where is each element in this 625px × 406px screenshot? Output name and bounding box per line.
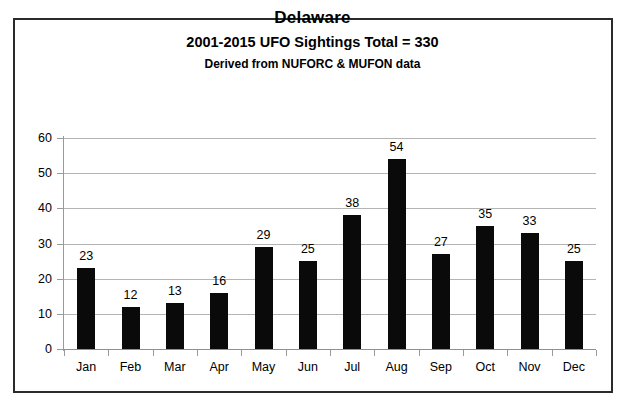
gridline-50 (64, 173, 596, 174)
x-tick (330, 350, 331, 356)
y-tick-50 (57, 173, 64, 174)
x-tick-label-sep: Sep (430, 360, 452, 374)
bar-value-feb: 12 (124, 288, 138, 302)
bar-value-sep: 27 (434, 235, 448, 249)
x-tick (374, 350, 375, 356)
bar-jan (77, 268, 95, 349)
x-tick (552, 350, 553, 356)
x-tick-label-may: May (252, 360, 276, 374)
x-tick-label-jun: Jun (298, 360, 318, 374)
y-tick-label-40: 40 (12, 201, 52, 215)
y-tick-10 (57, 314, 64, 315)
x-tick (286, 350, 287, 356)
x-tick (507, 350, 508, 356)
y-tick-label-0: 0 (12, 342, 52, 356)
bar-value-apr: 16 (212, 274, 226, 288)
y-tick-label-10: 10 (12, 307, 52, 321)
bar-sep (432, 254, 450, 349)
bar-value-oct: 35 (478, 207, 492, 221)
bar-mar (166, 303, 184, 349)
bar-aug (388, 159, 406, 349)
gridline-40 (64, 208, 596, 209)
x-tick-label-feb: Feb (120, 360, 142, 374)
bar-value-may: 29 (257, 228, 271, 242)
bar-value-jul: 38 (345, 196, 359, 210)
x-tick-label-jul: Jul (344, 360, 360, 374)
y-tick-label-20: 20 (12, 272, 52, 286)
plot-area (64, 138, 596, 349)
chart-figure: Delaware 2001-2015 UFO Sightings Total =… (0, 0, 625, 406)
y-tick-20 (57, 279, 64, 280)
x-tick-label-dec: Dec (563, 360, 585, 374)
bar-jun (299, 261, 317, 349)
x-tick (463, 350, 464, 356)
x-tick (419, 350, 420, 356)
bar-value-jan: 23 (79, 249, 93, 263)
y-axis-labels: 0102030405060 (8, 0, 52, 406)
x-tick-label-apr: Apr (209, 360, 228, 374)
x-tick (596, 350, 597, 356)
x-tick (153, 350, 154, 356)
x-tick (241, 350, 242, 356)
gridline-10 (64, 314, 596, 315)
y-tick-label-50: 50 (12, 166, 52, 180)
bar-value-aug: 54 (390, 140, 404, 154)
bar-value-mar: 13 (168, 284, 182, 298)
y-tick-label-30: 30 (12, 237, 52, 251)
x-tick (64, 350, 65, 356)
x-tick-label-oct: Oct (475, 360, 494, 374)
y-tick-40 (57, 208, 64, 209)
bar-jul (343, 215, 361, 349)
gridline-60 (64, 138, 596, 139)
x-tick-label-mar: Mar (164, 360, 186, 374)
bar-value-jun: 25 (301, 242, 315, 256)
bar-dec (565, 261, 583, 349)
bar-apr (210, 293, 228, 349)
bar-nov (521, 233, 539, 349)
x-tick-label-jan: Jan (76, 360, 96, 374)
x-tick (108, 350, 109, 356)
bar-may (255, 247, 273, 349)
y-tick-30 (57, 244, 64, 245)
y-tick-0 (57, 349, 64, 350)
bar-value-nov: 33 (523, 214, 537, 228)
y-tick-60 (57, 138, 64, 139)
y-tick-label-60: 60 (12, 131, 52, 145)
x-tick-label-aug: Aug (385, 360, 407, 374)
x-tick (197, 350, 198, 356)
bar-oct (476, 226, 494, 349)
x-tick-label-nov: Nov (518, 360, 540, 374)
gridline-30 (64, 244, 596, 245)
bar-feb (122, 307, 140, 349)
bar-value-dec: 25 (567, 242, 581, 256)
gridline-20 (64, 279, 596, 280)
